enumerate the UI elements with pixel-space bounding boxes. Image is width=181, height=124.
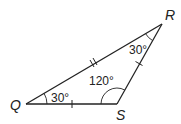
angle-label-s: 120° [89, 74, 114, 88]
vertex-label-q: Q [10, 97, 21, 113]
vertex-label-s: S [116, 107, 126, 123]
angle-label-r: 30° [129, 43, 147, 57]
side-qr [26, 24, 162, 104]
triangle-diagram: Q R S 30° 30° 120° [0, 0, 181, 124]
angle-label-q: 30° [51, 91, 69, 105]
angle-arc-r [146, 34, 153, 41]
vertex-label-r: R [165, 7, 175, 23]
angle-arc-q [44, 93, 47, 104]
